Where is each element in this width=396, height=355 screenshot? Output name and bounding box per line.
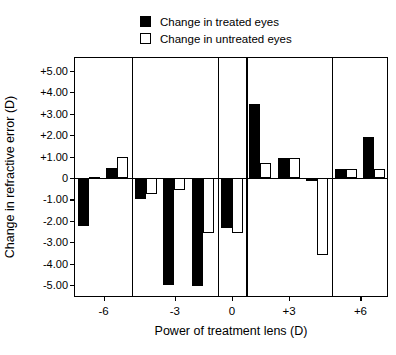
bar-untreated	[289, 158, 300, 178]
bar-untreated	[346, 169, 357, 178]
bar-treated	[249, 104, 260, 178]
y-axis-tick-label: +1.00	[40, 151, 68, 162]
y-axis-tick-label: -2.00	[43, 215, 68, 226]
x-axis-tick-label: -3	[170, 305, 180, 317]
y-axis-tick-label: 0	[62, 173, 68, 184]
bar-treated	[135, 178, 146, 199]
y-axis-tick-label: -3.00	[43, 237, 68, 248]
bar-treated	[163, 178, 174, 285]
bar-untreated	[374, 169, 385, 178]
y-axis-tick-label: +2.00	[40, 130, 68, 141]
bar-treated	[335, 169, 346, 178]
y-axis-tick	[70, 242, 75, 243]
y-axis-title: Change in refractive error (D)	[2, 57, 18, 297]
bar-treated	[106, 168, 117, 178]
bar-treated	[363, 137, 374, 178]
x-axis-tick	[360, 296, 361, 301]
legend-label-treated: Change in treated eyes	[160, 16, 279, 28]
y-axis-tick	[70, 285, 75, 286]
bar-untreated	[232, 178, 243, 233]
x-axis-tick	[104, 296, 105, 301]
x-axis-tick	[232, 296, 233, 301]
panel-divider	[218, 58, 219, 296]
bar-treated	[221, 178, 232, 228]
y-axis-tick-label: -1.00	[43, 194, 68, 205]
x-axis-tick-label: +3	[283, 305, 296, 317]
y-axis-tick	[70, 199, 75, 200]
y-axis-tick	[70, 178, 75, 179]
bar-treated	[78, 178, 89, 226]
x-axis-title: Power of treatment lens (D)	[74, 325, 388, 338]
bar-untreated	[117, 157, 128, 178]
open-square-icon	[140, 33, 151, 44]
bar-treated	[306, 178, 317, 181]
y-axis-tick	[70, 135, 75, 136]
y-axis-tick	[70, 92, 75, 93]
bar-untreated	[146, 178, 157, 194]
bar-treated	[192, 178, 203, 286]
filled-square-icon	[140, 16, 151, 27]
legend-item-untreated: Change in untreated eyes	[140, 31, 380, 46]
y-axis-tick	[70, 71, 75, 72]
x-axis-tick	[289, 296, 290, 301]
panel-divider	[246, 58, 247, 296]
bar-untreated	[260, 163, 271, 178]
bar-untreated	[89, 177, 100, 179]
x-axis-tick-label: +6	[354, 305, 367, 317]
y-axis-tick	[70, 114, 75, 115]
bar-untreated	[317, 178, 328, 255]
legend-item-treated: Change in treated eyes	[140, 14, 380, 29]
y-axis-tick-label: -5.00	[43, 280, 68, 291]
panel-divider	[332, 58, 333, 296]
panel-divider	[132, 58, 133, 296]
bar-untreated	[203, 178, 214, 233]
y-axis-tick-label: +5.00	[40, 65, 68, 76]
y-axis-tick	[70, 221, 75, 222]
bar-treated	[278, 158, 289, 178]
y-axis-tick	[70, 157, 75, 158]
x-axis-tick-label: 0	[229, 305, 235, 317]
legend-label-untreated: Change in untreated eyes	[160, 33, 292, 45]
y-axis-tick-label: +4.00	[40, 87, 68, 98]
chart-legend: Change in treated eyes Change in untreat…	[140, 14, 380, 48]
bar-untreated	[174, 178, 185, 190]
x-axis-tick-label: -6	[98, 305, 108, 317]
x-axis-tick	[175, 296, 176, 301]
y-axis-tick-label: -4.00	[43, 258, 68, 269]
y-axis-tick-label: +3.00	[40, 108, 68, 119]
y-axis-title-text: Change in refractive error (D)	[3, 96, 17, 259]
y-axis-tick	[70, 264, 75, 265]
plot-area: +5.00+4.00+3.00+2.00+1.000-1.00-2.00-3.0…	[74, 57, 388, 297]
